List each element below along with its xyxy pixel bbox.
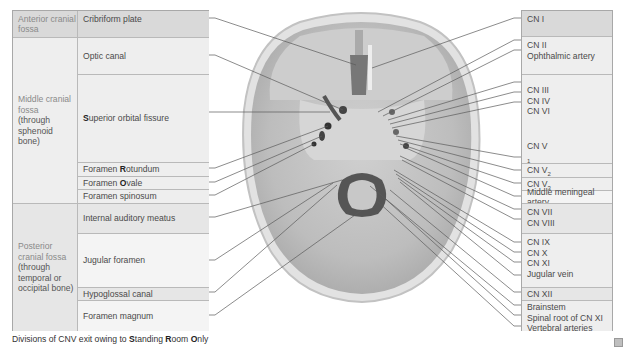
opening-foramen-ovale: Foramen Ovale [78,176,209,189]
structures-jugular-foramen: CN IX CN X CN XI Jugular vein [522,233,612,287]
region-sub: (through temporal or occipital bone) [18,262,77,294]
opening-superior-orbital-fissure: Superior orbital fissure [78,74,209,162]
opening-foramen-spinosum: Foramen spinosum [78,189,209,203]
mnemonic-footnote: Divisions of CNV exit owing to Standing … [12,334,208,344]
region-label: Middle cranial fossa [18,94,77,115]
cnv-base: CN V [527,141,548,152]
region-middle-fossa: Middle cranial fossa (through sphenoid b… [13,37,78,203]
opening-label: Internal auditory meatus [83,213,175,224]
opening-label: Hypoglossal canal [83,289,153,300]
region-label: Posterior cranial fossa [18,241,77,262]
opening-label: Foramen Ovale [83,178,142,189]
opening-foramen-rotundum: Foramen Rotundum [78,162,209,176]
structure-label: CN VI [527,106,550,117]
structure-label: CN I [527,14,544,25]
structures-foramen-spinosum: Middle meningeal artery [522,190,612,203]
structure-label: CN VII [527,207,552,218]
right-structures-table: CN I CN II Ophthalmic artery CN III CN I… [521,10,613,331]
opening-hypoglossal-canal: Hypoglossal canal [78,287,209,300]
publisher-logo-icon [614,338,623,347]
structure-label: Brainstem [527,302,566,313]
structure-label: CN III [527,85,549,96]
opening-label: Cribriform plate [83,14,142,25]
footnote-text: Divisions of CNV exit owing to [12,334,129,344]
opening-label-rest: otundum [126,164,159,174]
structure-label: Spinal root of CN XI [527,313,603,324]
opening-label: Superior orbital fissure [83,113,169,124]
opening-label: Foramen Rotundum [83,164,159,175]
structures-optic-canal: CN II Ophthalmic artery [522,36,612,74]
structures-internal-auditory-meatus: CN VII CN VIII [522,203,612,233]
structures-foramen-magnum: Brainstem Spinal root of CN XI Vertebral… [522,300,612,331]
opening-label: Foramen magnum [83,311,153,322]
structure-label: CN II [527,40,547,51]
opening-label-pre: Foramen [83,178,120,188]
opening-label: Jugular foramen [83,255,145,266]
opening-internal-auditory-meatus: Internal auditory meatus [78,203,209,233]
structure-label: Jugular vein [527,269,573,280]
region-posterior-fossa: Posterior cranial fossa (through tempora… [13,203,78,331]
structure-label: CN IX [527,237,550,248]
footnote-text: nly [197,334,208,344]
region-sub: (through sphenoid bone) [18,115,77,147]
structure-label: CN IV [527,96,550,107]
opening-label-pre: Foramen [83,164,120,174]
opening-label-rest: uperior orbital fissure [89,113,169,123]
structure-label: CN X [527,248,548,259]
structure-label-cn-v2: CN V2 [527,165,551,176]
structures-foramen-rotundum: CN V2 [522,163,612,177]
footnote-text: tanding [135,334,166,344]
opening-label: Optic canal [83,51,126,62]
opening-label-rest: vale [126,178,142,188]
region-label: Anterior cranial fossa [18,14,77,35]
cnv-base: CN V [527,165,548,175]
structure-label: CN VIII [527,218,555,229]
structure-label: Vertebral arteries [527,323,592,334]
region-anterior-fossa: Anterior cranial fossa [13,11,78,37]
structure-label: Ophthalmic artery [527,51,595,62]
structure-label: CN XII [527,289,552,300]
footnote-text: oom [172,334,191,344]
left-foramina-table: Anterior cranial fossa Middle cranial fo… [12,10,209,331]
opening-foramen-magnum: Foramen magnum [78,300,209,331]
structure-label: CN XI [527,258,550,269]
structures-superior-orbital-fissure: CN III CN IV CN VI CN V1 [522,74,612,163]
structures-cn-i: CN I [522,11,612,36]
structures-hypoglossal-canal: CN XII [522,287,612,300]
opening-label: Foramen spinosum [83,191,157,202]
opening-optic-canal: Optic canal [78,37,209,74]
opening-cribriform-plate: Cribriform plate [78,11,209,37]
structure-label-cn-v1: CN V1 [527,141,548,162]
opening-jugular-foramen: Jugular foramen [78,233,209,287]
